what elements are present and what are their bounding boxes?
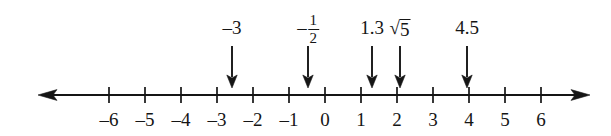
- marker-label-neg-one-half: –12: [297, 12, 319, 46]
- tick-label: 3: [428, 110, 438, 129]
- tick-label: 1: [356, 110, 366, 129]
- tick-label: 0: [320, 110, 330, 129]
- fraction-sign: –: [297, 18, 308, 38]
- axis-group: [38, 90, 590, 101]
- tick-label: –5: [136, 110, 155, 129]
- tick-label: –2: [244, 110, 263, 129]
- fraction-glyph: –12: [297, 12, 319, 46]
- tick-label: –1: [280, 110, 299, 129]
- fraction-stack: 12: [308, 13, 319, 47]
- fraction-denominator: 2: [309, 31, 319, 46]
- marker-label-sqrt5: √5: [390, 18, 411, 39]
- marker-label-text: 1.3: [360, 17, 384, 38]
- marker-label-4-5: 4.5: [455, 18, 479, 38]
- marker-arrows-group: [227, 46, 472, 88]
- radical-glyph: √5: [390, 18, 411, 39]
- tick-label: –6: [100, 110, 119, 129]
- tick-label: 2: [392, 110, 402, 129]
- marker-label-text: –3: [223, 17, 242, 38]
- radical-sign: √: [390, 18, 400, 37]
- marker-label-1-3: 1.3: [360, 18, 384, 38]
- tick-label: –3: [208, 110, 227, 129]
- marker-label-neg3: –3: [223, 18, 242, 38]
- number-line-figure: –6–5–4–3–2–10123456 –3–121.3√54.5: [0, 0, 611, 136]
- tick-label: 4: [464, 110, 474, 129]
- fraction-numerator: 1: [309, 13, 319, 28]
- tick-label: 5: [500, 110, 510, 129]
- tick-label: 6: [536, 110, 546, 129]
- radicand: 5: [400, 19, 411, 39]
- tick-label: –4: [172, 110, 191, 129]
- marker-label-text: 4.5: [455, 17, 479, 38]
